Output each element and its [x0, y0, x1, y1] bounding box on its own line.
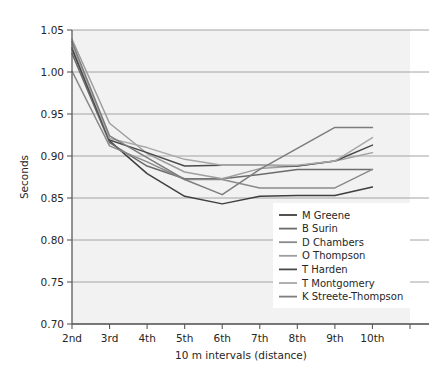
- legend-label: T Harden: [301, 264, 348, 275]
- x-tick-label: 4th: [138, 332, 155, 344]
- x-tick-label: 5th: [176, 332, 193, 344]
- chart-canvas: 0.700.750.800.850.900.951.001.05 2nd3rd4…: [0, 0, 429, 377]
- x-tick-label: 2nd: [62, 332, 82, 344]
- x-tick-label: 7th: [251, 332, 268, 344]
- x-tick-label: 3rd: [101, 332, 118, 344]
- legend-label: K Streete-Thompson: [302, 291, 403, 302]
- x-tick-label: 10th: [360, 332, 384, 344]
- y-tick-label: 0.85: [41, 192, 64, 204]
- legend-label: B Surin: [302, 223, 338, 234]
- y-axis-title: Seconds: [18, 155, 30, 199]
- x-axis-title: 10 m intervals (distance): [175, 349, 307, 361]
- x-tick-label: 6th: [213, 332, 230, 344]
- legend-label: T Montgomery: [301, 278, 375, 289]
- x-axis-tick-labels: 2nd3rd4th5th6th7th8th9th10th: [62, 332, 385, 344]
- y-tick-label: 1.05: [41, 24, 64, 36]
- chart-legend: M GreeneB SurinD ChambersO ThompsonT Har…: [273, 203, 410, 308]
- x-tick-label: 8th: [289, 332, 306, 344]
- legend-label: D Chambers: [302, 237, 364, 248]
- y-tick-label: 0.90: [41, 150, 64, 162]
- y-tick-label: 0.70: [41, 318, 64, 330]
- legend-label: M Greene: [302, 210, 350, 221]
- y-axis-tick-labels: 0.700.750.800.850.900.951.001.05: [41, 24, 64, 330]
- x-tick-label: 9th: [326, 332, 343, 344]
- y-tick-label: 0.80: [41, 234, 64, 246]
- line-chart: 0.700.750.800.850.900.951.001.05 2nd3rd4…: [0, 0, 429, 377]
- legend-label: O Thompson: [302, 250, 365, 261]
- y-tick-label: 1.00: [41, 66, 64, 78]
- y-tick-label: 0.75: [41, 276, 64, 288]
- y-tick-label: 0.95: [41, 108, 64, 120]
